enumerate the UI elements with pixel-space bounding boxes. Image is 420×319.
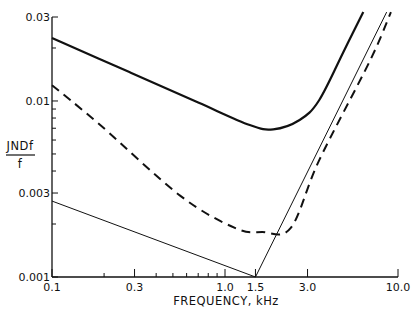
y-tick-label: 0.03 [26, 11, 51, 24]
y-axis-title-denominator: f [18, 157, 23, 171]
x-tick-label: 1.5 [247, 281, 265, 294]
series-dashed [52, 12, 391, 235]
y-axis-title-numerator: JNDf [6, 139, 34, 153]
axes [52, 17, 398, 277]
y-tick-label: 0.001 [19, 271, 51, 284]
x-tick-label: 3.0 [299, 281, 317, 294]
y-tick-label: 0.01 [26, 95, 51, 108]
x-axis-title: FREQUENCY, kHz [173, 294, 279, 308]
series-solid-thick [52, 12, 363, 130]
series [52, 12, 391, 277]
x-tick-label: 0.3 [126, 281, 144, 294]
jnd-frequency-chart: 0.10.31.01.53.010.00.0010.0030.010.03 FR… [0, 0, 420, 319]
ticks: 0.10.31.01.53.010.00.0010.0030.010.03 [19, 11, 411, 294]
series-thin-straight [52, 12, 387, 277]
y-tick-label: 0.003 [19, 187, 51, 200]
x-tick-label: 1.0 [216, 281, 234, 294]
x-tick-label: 10.0 [386, 281, 411, 294]
